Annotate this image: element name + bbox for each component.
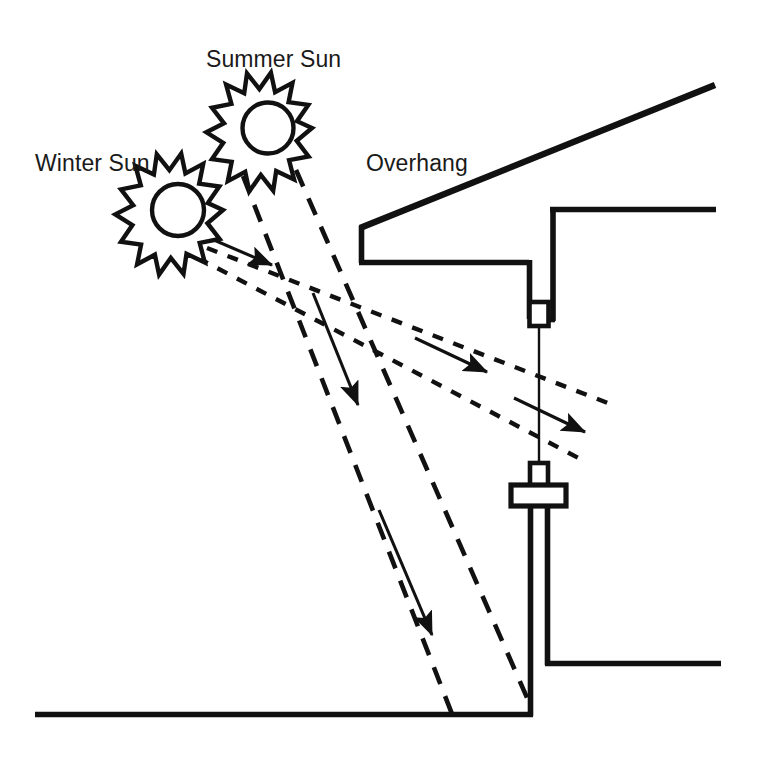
summer-ray-left bbox=[243, 176, 452, 714]
summer-ray-right bbox=[296, 170, 528, 700]
window-head-jamb bbox=[530, 302, 549, 326]
solar-overhang-svg bbox=[0, 0, 761, 760]
direction-arrow-group bbox=[193, 231, 585, 635]
diagram-canvas: Winter Sun Summer Sun Overhang bbox=[0, 0, 761, 760]
winter-sun-core bbox=[152, 184, 204, 236]
winter-arrow-window bbox=[514, 398, 585, 432]
summer-ray-group bbox=[243, 170, 528, 714]
summer-sun-label: Summer Sun bbox=[206, 48, 341, 71]
summer-arrow-lower bbox=[379, 510, 432, 635]
winter-arrow-middle bbox=[415, 338, 487, 372]
summer-sun-core bbox=[243, 103, 294, 154]
winter-sun-label: Winter Sun bbox=[35, 152, 150, 175]
summer-arrow-upper bbox=[313, 293, 358, 405]
window-sill-plate bbox=[511, 485, 566, 506]
overhang-label: Overhang bbox=[366, 152, 468, 175]
